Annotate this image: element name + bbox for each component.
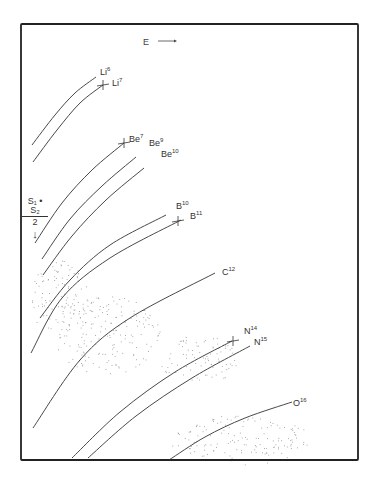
- plot-frame: [21, 24, 358, 460]
- curve-c12: [33, 273, 215, 428]
- curve-li7: [33, 85, 103, 162]
- label-o16: O16: [293, 397, 307, 408]
- down-arrow-icon: ↓: [22, 229, 48, 240]
- label-c12: C12: [222, 266, 235, 277]
- curve-o16: [169, 402, 292, 460]
- isotope-curves: [31, 77, 292, 460]
- plot-area: [0, 0, 378, 478]
- x-axis-label: E: [143, 37, 149, 47]
- label-be7: Be7: [129, 133, 143, 144]
- label-be9: Be9: [149, 137, 163, 148]
- label-li7: Li7: [112, 77, 122, 88]
- curve-be10: [43, 168, 144, 275]
- y-axis-label: S₁ • S₂ 2 ↓: [22, 197, 48, 240]
- curve-be7: [35, 143, 124, 243]
- scatter-points: [32, 261, 307, 466]
- curve-b11: [31, 220, 181, 353]
- label-be10: Be10: [161, 148, 179, 159]
- cross-markers: [97, 80, 239, 346]
- label-li6: Li6: [100, 66, 110, 77]
- curve-be9: [42, 157, 136, 259]
- label-b10: B10: [176, 200, 189, 211]
- cross-marker-icon: [172, 216, 184, 226]
- label-b11: B11: [190, 210, 202, 221]
- label-n15: N15: [254, 336, 267, 347]
- curve-n15: [88, 346, 250, 458]
- label-n14: N14: [244, 325, 257, 336]
- cross-marker-icon: [227, 336, 239, 346]
- curve-li6: [32, 77, 96, 145]
- y-axis-denominator: 2: [22, 218, 48, 227]
- y-axis-numerator: S₁ • S₂: [22, 197, 48, 217]
- x-axis-arrow-icon: [158, 40, 177, 43]
